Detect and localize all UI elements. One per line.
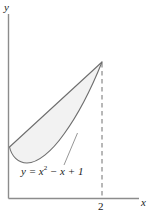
curve-equation-label: y = x2 − x + 1: [21, 166, 83, 177]
equation-tail: − x + 1: [47, 165, 83, 177]
equation-prefix: y = x: [21, 165, 44, 177]
y-axis-label: y: [4, 2, 9, 13]
graph-canvas: [0, 0, 153, 219]
x-tick-label-2: 2: [98, 201, 104, 212]
figure-container: y x 2 y = x2 − x + 1: [0, 0, 153, 219]
x-axis-label: x: [141, 197, 146, 208]
shaded-region: [10, 62, 103, 163]
equation-leader-line: [64, 133, 78, 165]
